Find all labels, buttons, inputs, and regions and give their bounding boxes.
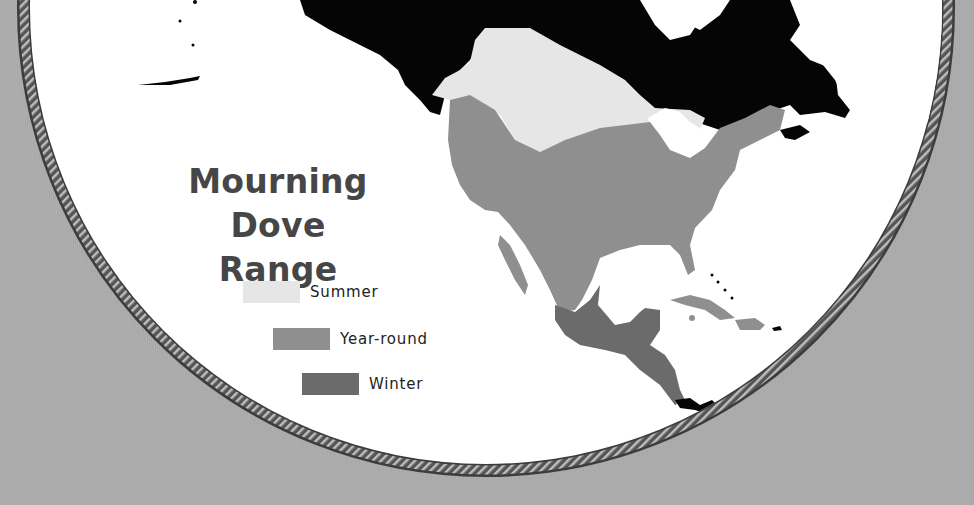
legend-swatch-year-round (273, 328, 330, 350)
legend-swatch-summer (243, 281, 300, 303)
legend-item-summer: Summer (243, 281, 378, 303)
legend-item-year-round: Year-round (273, 328, 428, 350)
legend-label-summer: Summer (310, 283, 378, 301)
legend-label-winter: Winter (369, 375, 423, 393)
map-title-line1: Mourning Dove (138, 160, 418, 248)
map-title: Mourning Dove Range (138, 160, 418, 292)
legend-swatch-winter (302, 373, 359, 395)
legend-label-year-round: Year-round (340, 330, 428, 348)
legend-item-winter: Winter (302, 373, 423, 395)
